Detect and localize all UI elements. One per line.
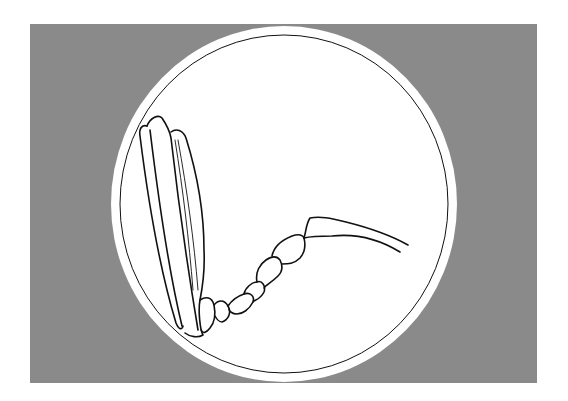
white-disc xyxy=(111,26,457,382)
antenna-illustration xyxy=(0,0,568,401)
